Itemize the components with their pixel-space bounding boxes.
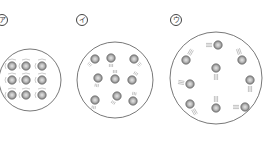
particle bbox=[8, 76, 17, 85]
particle bbox=[91, 96, 100, 105]
particle bbox=[212, 104, 221, 113]
particle bbox=[186, 80, 195, 89]
particle bbox=[94, 74, 103, 83]
panel-gas bbox=[170, 32, 262, 124]
particle-diagram: ア イ ウ bbox=[0, 0, 263, 146]
particle bbox=[129, 97, 138, 106]
particle bbox=[241, 103, 250, 112]
particle bbox=[111, 75, 120, 84]
particle bbox=[22, 76, 31, 85]
particle bbox=[212, 64, 221, 73]
panel-solid bbox=[0, 49, 61, 111]
particle bbox=[238, 56, 247, 65]
particle bbox=[22, 62, 31, 71]
particle bbox=[128, 76, 137, 85]
particle bbox=[38, 62, 47, 71]
panel-label-i: イ bbox=[76, 14, 88, 26]
particle bbox=[22, 91, 31, 100]
particle bbox=[8, 91, 17, 100]
particle bbox=[38, 91, 47, 100]
particle bbox=[130, 55, 139, 64]
particle bbox=[214, 41, 223, 50]
panel-liquid bbox=[77, 42, 153, 118]
particle bbox=[113, 92, 122, 101]
particle bbox=[38, 76, 47, 85]
particle bbox=[246, 76, 255, 85]
particle bbox=[186, 100, 195, 109]
particle bbox=[8, 62, 17, 71]
particle bbox=[182, 56, 191, 65]
particle bbox=[91, 55, 100, 64]
diagram-canvas bbox=[0, 0, 263, 146]
panel-label-u: ウ bbox=[170, 14, 182, 26]
particle bbox=[107, 54, 116, 63]
